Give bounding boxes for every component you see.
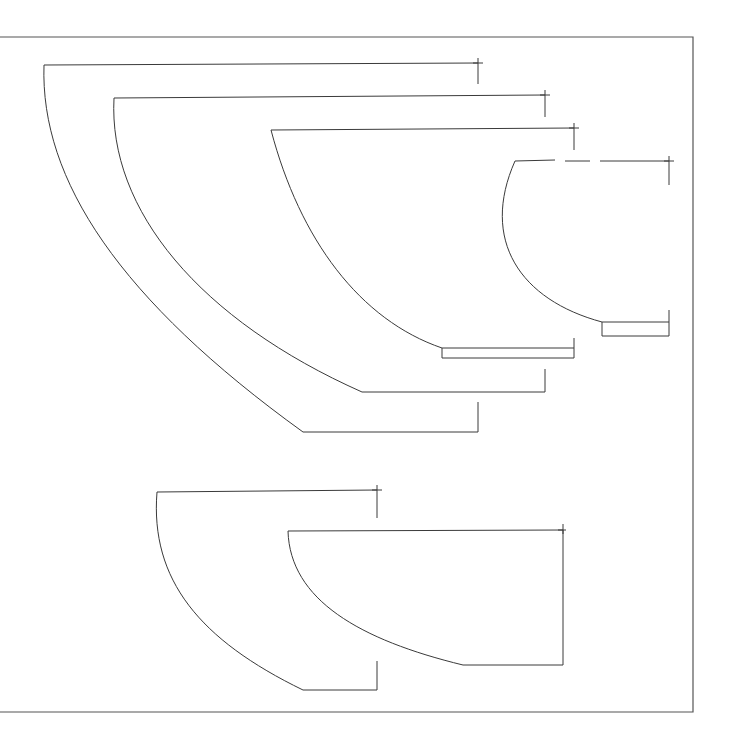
profile-6: [288, 524, 566, 665]
profile-2: [114, 90, 550, 392]
profile-5: [156, 485, 382, 690]
profile-1: [44, 58, 483, 432]
drawing-canvas: [0, 0, 734, 750]
profile-drawing: [0, 0, 734, 750]
profile-3: [271, 123, 579, 358]
drawing-frame: [0, 37, 693, 712]
profile-4: [502, 156, 674, 336]
